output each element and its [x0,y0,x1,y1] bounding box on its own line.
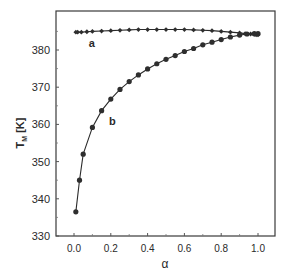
x-tick-label: 0.2 [104,243,118,254]
data-point-a [173,27,178,32]
data-point-a [118,28,123,33]
y-axis-label: TM[K] [14,117,28,148]
data-point-a [90,29,95,34]
data-point-a [84,29,89,34]
data-point-a [191,28,196,33]
svg-text:TM[K]: TM[K] [14,117,28,148]
data-point-a [228,30,233,35]
data-point-a [164,27,169,32]
x-tick-label: 0.0 [67,243,81,254]
line-chart: 3303403503603703800.00.20.40.60.81.0 a b… [0,0,289,280]
y-tick-label: 360 [32,118,50,130]
data-point-b [182,49,187,54]
curve-label-a: a [89,37,96,49]
data-point-b [136,72,141,77]
data-point-b [117,87,122,92]
data-point-b [228,34,233,39]
data-point-b [90,125,95,130]
data-point-b [108,97,113,102]
data-point-b [81,152,86,157]
data-point-b [191,46,196,51]
y-tick-label: 340 [32,193,50,205]
data-point-b [163,57,168,62]
data-point-a [154,27,159,32]
x-tick-label: 0.6 [177,243,191,254]
data-point-a [79,30,84,35]
data-point-b [77,178,82,183]
data-point-b [73,209,78,214]
data-point-b [219,37,224,42]
data-point-a [182,27,187,32]
y-tick-label: 370 [32,81,50,93]
data-point-b [237,33,242,38]
y-axis-label-subscript: M [21,136,28,142]
data-point-b [145,66,150,71]
x-tick-label: 0.4 [141,243,155,254]
y-axis-label-unit: [K] [14,117,26,133]
data-point-a [108,28,113,33]
data-point-a [127,28,132,33]
data-point-a [136,27,141,32]
data-point-b [127,79,132,84]
x-axis-label: α [162,257,169,271]
y-tick-label: 380 [32,44,50,56]
data-point-b [173,53,178,58]
data-point-a [99,29,104,34]
data-point-b [244,31,249,36]
plot-series [73,27,260,214]
data-point-a [145,27,150,32]
data-point-b [154,61,159,66]
chart-container: 3303403503603703800.00.20.40.60.81.0 a b… [0,0,289,280]
data-point-a [210,28,215,33]
x-tick-label: 1.0 [251,243,265,254]
curve-label-b: b [109,115,116,127]
data-point-a [219,29,224,34]
plot-axes: 3303403503603703800.00.20.40.60.81.0 [32,11,275,254]
x-tick-label: 0.8 [214,243,228,254]
data-point-b [255,31,260,36]
data-point-b [209,40,214,45]
y-tick-label: 330 [32,230,50,242]
data-point-b [200,42,205,47]
data-point-a [200,28,205,33]
y-tick-label: 350 [32,156,50,168]
data-point-b [99,108,104,113]
